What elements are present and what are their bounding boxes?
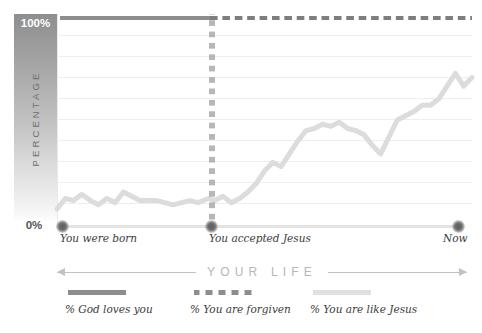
series-like-jesus — [57, 14, 472, 226]
left-arrow-icon — [57, 272, 196, 273]
legend-label: % God loves you — [65, 303, 153, 315]
legend-swatch-solid-dark-icon — [68, 290, 126, 295]
legend-item-god-loves-you: % God loves you — [65, 290, 153, 315]
legend-swatch-solid-light-icon — [313, 290, 371, 295]
y-axis-min-label: 0% — [12, 219, 56, 231]
y-axis-max-label: 100% — [14, 17, 57, 29]
x-axis-title: YOUR LIFE — [196, 265, 328, 279]
x-axis-label-now: Now — [443, 232, 468, 244]
legend-item-you-are-like-jesus: % You are like Jesus — [310, 290, 417, 315]
x-axis-label-born: You were born — [60, 232, 137, 244]
series-you-are-forgiven-line — [210, 16, 472, 20]
series-god-loves-you-line — [60, 16, 212, 20]
y-axis-title-wrap: PERCENTAGE — [14, 14, 57, 222]
x-axis-baseline — [62, 225, 460, 228]
legend-label: % You are like Jesus — [310, 303, 417, 315]
legend-swatch-dotted-icon — [194, 290, 256, 295]
y-axis-title: PERCENTAGE — [30, 70, 41, 166]
plot-area — [57, 14, 472, 226]
legend-label: % You are forgiven — [190, 303, 291, 315]
right-arrow-icon — [328, 272, 467, 273]
x-axis-label-accepted-jesus: You accepted Jesus — [209, 232, 311, 244]
your-life-axis: YOUR LIFE — [57, 262, 467, 282]
conversion-marker-line — [209, 14, 215, 220]
chart-container: PERCENTAGE 100% 0% You were born You acc… — [0, 0, 482, 333]
legend: % God loves you % You are forgiven % You… — [0, 290, 482, 330]
legend-item-you-are-forgiven: % You are forgiven — [190, 290, 291, 315]
